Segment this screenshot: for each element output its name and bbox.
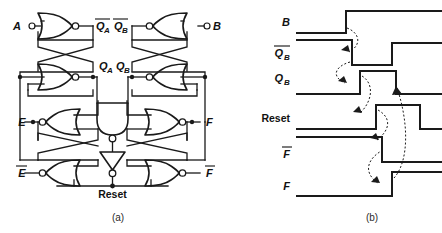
label-qb-bar-sub: B (122, 26, 128, 35)
timing-label-qb-sub: B (284, 78, 290, 87)
label-input-a: A (12, 20, 21, 32)
timing-label-b: B (282, 16, 290, 28)
label-qb-sub: B (124, 66, 130, 75)
gate-nor-e (39, 109, 80, 135)
timing-label-b-text: B (282, 16, 290, 28)
waveform-f-bar (296, 137, 442, 162)
causality-arrow-qbbar-to-qb (336, 62, 350, 83)
causality-arrow-fbar-to-f (369, 150, 383, 183)
label-f-bar-text: F (206, 167, 213, 179)
timing-diagram-panel: B Q B Q B Reset F F (225, 0, 442, 233)
junction-f (190, 120, 194, 124)
label-input-b: B (213, 20, 221, 32)
timing-label-qb-bar: Q B (274, 46, 290, 62)
label-e-bar-text: E (18, 167, 26, 179)
label-node-qa: Q A (99, 60, 113, 75)
gate-inverter-center (100, 152, 125, 177)
gate-nor-f (145, 109, 186, 135)
label-qa-bar-sub: A (103, 26, 110, 35)
timing-label-f-bar-text: F (283, 148, 290, 160)
gate-nand-center (97, 103, 128, 142)
timing-label-reset: Reset (261, 112, 290, 124)
label-input-f: F (206, 116, 213, 128)
causality-arrow-f-to-qb (392, 86, 406, 178)
label-node-qb: Q B (116, 60, 130, 75)
label-node-qb-bar: Q B (113, 19, 128, 35)
label-node-reset: Reset (98, 188, 127, 200)
timing-label-qb-bar-sub: B (284, 53, 290, 62)
label-qa-sub: A (106, 66, 113, 75)
label-input-f-bar: F (205, 166, 215, 179)
label-node-qa-bar: Q A (95, 19, 110, 35)
input-terminal-b[interactable] (204, 23, 210, 29)
waveform-b (296, 11, 442, 33)
gate-nor-qa-bar (38, 13, 79, 39)
timing-label-qb-bar-q: Q (274, 47, 283, 59)
waveform-reset (296, 105, 442, 129)
caption-panel-b: (b) (366, 212, 378, 223)
waveform-qb (296, 71, 442, 94)
timing-label-f: F (283, 180, 290, 192)
waveform-f (296, 172, 442, 196)
causality-arrow-reset-to-fbar (370, 110, 388, 140)
figure-root: A B Q A Q B Q A Q B E E (0, 0, 442, 233)
timing-label-qb: Q B (274, 72, 290, 87)
wire-qa-fb-lower-box (28, 90, 93, 96)
label-input-e: E (18, 116, 26, 128)
junction-qb (130, 75, 134, 79)
timing-label-f-bar: F (282, 147, 292, 160)
wire-qb-fb-lower-box (132, 90, 197, 96)
junction-qa (91, 75, 95, 79)
logic-circuit-panel: A B Q A Q B Q A Q B E E (0, 0, 225, 233)
waveform-qb-bar (296, 40, 442, 65)
caption-panel-a: (a) (112, 212, 124, 223)
junction-e (31, 120, 35, 124)
label-input-e-bar: E (16, 166, 27, 179)
timing-label-qb-q: Q (274, 72, 283, 84)
input-terminal-a[interactable] (29, 23, 35, 29)
gate-nor-qb-bar (146, 13, 187, 39)
